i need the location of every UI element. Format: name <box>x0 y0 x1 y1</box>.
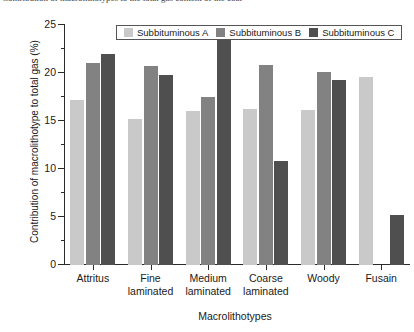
bar <box>317 72 331 265</box>
y-tick-label: 15 <box>44 114 56 126</box>
y-tick-major <box>58 216 64 217</box>
y-tick-major <box>58 264 64 265</box>
x-category-label-line: Fusain <box>336 272 414 285</box>
x-tick <box>93 265 94 270</box>
x-category-label-line: laminated <box>221 285 311 298</box>
y-tick-minor <box>61 48 65 49</box>
bar <box>274 161 288 265</box>
bar <box>390 215 404 265</box>
legend-entry: Subbituminous A <box>124 27 208 38</box>
y-tick-label: 5 <box>50 210 56 222</box>
bar <box>201 97 215 265</box>
bar <box>159 75 173 265</box>
x-category-label: Fusain <box>336 272 414 285</box>
bar <box>186 111 200 265</box>
bar <box>70 100 84 265</box>
y-tick-major <box>58 24 64 25</box>
plot-area: 0510152025 AttritusFinelaminatedMediumla… <box>64 24 410 265</box>
legend-entry: Subbituminous B <box>216 27 301 38</box>
y-tick-minor <box>61 96 65 97</box>
y-tick-minor <box>61 144 65 145</box>
legend-swatch-icon <box>216 28 225 37</box>
bar <box>128 119 142 265</box>
legend-swatch-icon <box>124 28 133 37</box>
legend-label: Subbituminous C <box>322 27 394 38</box>
y-tick-major <box>58 120 64 121</box>
y-axis-line <box>64 24 65 265</box>
bar <box>259 65 273 265</box>
legend-label: Subbituminous B <box>229 27 301 38</box>
x-axis-title: Macrolithotypes <box>70 310 400 322</box>
x-tick <box>208 265 209 270</box>
y-tick-major <box>58 168 64 169</box>
y-tick-label: 25 <box>44 18 56 30</box>
bar <box>101 54 115 265</box>
y-tick-major <box>58 72 64 73</box>
bar-chart-figure: Contribution of macrolithotype to total … <box>0 0 414 332</box>
y-tick-minor <box>61 192 65 193</box>
y-tick-label: 10 <box>44 162 56 174</box>
x-tick <box>381 265 382 270</box>
bar <box>332 80 346 265</box>
bar <box>86 63 100 265</box>
y-axis-title: Contribution of macrolithotype to total … <box>29 22 40 262</box>
legend-entry: Subbituminous C <box>309 27 394 38</box>
legend-label: Subbituminous A <box>137 27 208 38</box>
bar <box>217 40 231 265</box>
bar <box>359 77 373 265</box>
y-tick-label: 0 <box>50 258 56 270</box>
bar <box>144 66 158 265</box>
chart-legend: Subbituminous ASubbituminous BSubbitumin… <box>116 25 402 40</box>
y-tick-minor <box>61 240 65 241</box>
x-tick <box>151 265 152 270</box>
bar <box>243 109 257 265</box>
x-tick <box>324 265 325 270</box>
bar <box>301 110 315 265</box>
y-tick-label: 20 <box>44 66 56 78</box>
x-tick <box>266 265 267 270</box>
legend-swatch-icon <box>309 28 318 37</box>
